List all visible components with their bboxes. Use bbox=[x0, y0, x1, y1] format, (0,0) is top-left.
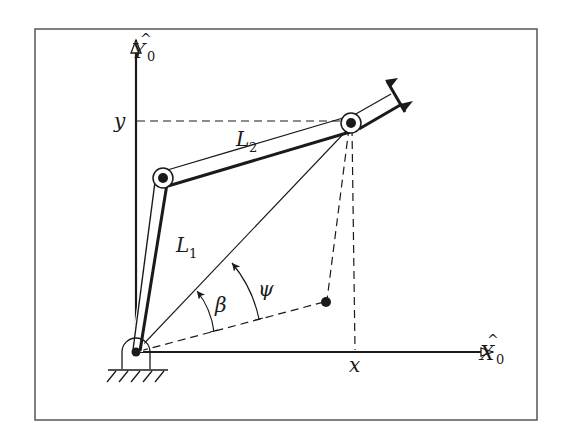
svg-text:2: 2 bbox=[249, 140, 257, 155]
y-coordinate-label: y bbox=[113, 109, 126, 133]
psi-label: ψ bbox=[258, 277, 274, 301]
svg-text:0: 0 bbox=[147, 49, 155, 64]
wrist-joint bbox=[341, 113, 361, 133]
figure-frame bbox=[35, 29, 537, 420]
link-1-label: L 1 bbox=[175, 233, 197, 261]
beta-label: β bbox=[214, 293, 227, 317]
diagram-canvas: Y ^ 0 X ^ 0 y x L 1 L 2 β ψ bbox=[0, 0, 562, 446]
x-coordinate-label: x bbox=[349, 353, 360, 377]
svg-text:^: ^ bbox=[140, 31, 152, 47]
end-effector bbox=[354, 78, 413, 129]
reach-line bbox=[136, 128, 349, 352]
svg-text:0: 0 bbox=[496, 352, 504, 367]
elbow-joint bbox=[153, 168, 173, 188]
svg-text:^: ^ bbox=[487, 332, 499, 348]
svg-text:L: L bbox=[235, 127, 249, 151]
svg-text:1: 1 bbox=[189, 246, 197, 261]
target-point bbox=[321, 297, 331, 307]
svg-text:L: L bbox=[175, 233, 189, 257]
link-2-label: L 2 bbox=[235, 127, 257, 155]
y-axis-label: Y ^ 0 bbox=[132, 31, 155, 64]
psi-arc bbox=[232, 263, 259, 319]
x-axis-label: X ^ 0 bbox=[478, 332, 504, 367]
beta-arc bbox=[197, 291, 214, 332]
manipulator-diagram: Y ^ 0 X ^ 0 y x L 1 L 2 β ψ bbox=[0, 0, 562, 446]
